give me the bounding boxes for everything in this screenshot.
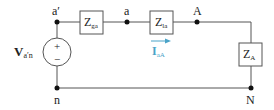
- node-A-dot: [195, 20, 200, 25]
- node-n-dot: [55, 86, 60, 91]
- impedance-za: ZA: [239, 43, 262, 66]
- node-aprime-dot: [55, 20, 60, 25]
- node-aprime-label: a′: [52, 4, 60, 18]
- impedance-zla: Zla: [150, 11, 173, 34]
- source-label: Va′n: [14, 44, 33, 60]
- current-arrow-icon: [151, 39, 171, 44]
- node-N-label: N: [246, 93, 255, 107]
- source-plus: +: [54, 40, 60, 52]
- voltage-source: + −: [43, 38, 71, 66]
- impedance-zga: Zga: [80, 11, 103, 34]
- node-n-label: n: [54, 93, 60, 107]
- current-label: IaA: [152, 44, 165, 59]
- node-N-dot: [249, 86, 254, 91]
- source-minus: −: [54, 53, 60, 65]
- circuit-diagram: + − Va′n Zga Zla ZA a′ a A n N IaA: [0, 0, 274, 110]
- node-a-label: a: [124, 4, 130, 18]
- node-A-label: A: [193, 4, 202, 18]
- node-a-dot: [125, 20, 130, 25]
